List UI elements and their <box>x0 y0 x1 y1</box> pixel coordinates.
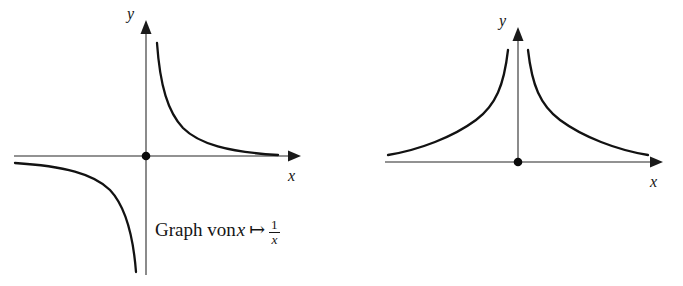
panel-graph-one-over-x: y x Graph vonx↦1x <box>0 0 341 286</box>
x-axis-label: x <box>649 173 657 190</box>
curve-branch-positive <box>528 50 648 155</box>
panel-graph-one-over-x-squared: y x Graph vonx↦1x2 <box>341 0 683 286</box>
plot-one-over-x-squared: y x <box>341 0 683 286</box>
x-axis-label: x <box>287 167 295 184</box>
caption-one-over-x: Graph vonx↦1x <box>155 218 281 246</box>
y-axis-label: y <box>125 5 135 23</box>
maps-to-icon: ↦ <box>246 219 268 240</box>
fraction-denominator-base: x <box>271 232 277 247</box>
curve-branch-positive <box>157 43 278 155</box>
origin-dot <box>514 158 523 167</box>
origin-dot <box>142 152 151 161</box>
curve-branch-negative <box>15 163 136 272</box>
fraction-numerator: 1 <box>269 218 280 233</box>
figure-root: y x Graph vonx↦1x y x Graph vo <box>0 0 683 286</box>
caption-prefix: Graph von <box>155 219 236 240</box>
curve-branch-negative <box>388 50 508 155</box>
y-axis-arrowhead <box>513 27 524 41</box>
caption-variable: x <box>236 219 246 240</box>
fraction-denominator: x <box>269 233 280 247</box>
y-axis-arrowhead <box>141 20 152 34</box>
caption-fraction: 1x <box>268 218 281 246</box>
x-axis-arrowhead <box>288 151 301 162</box>
x-axis-arrowhead <box>650 157 663 168</box>
y-axis-label: y <box>497 12 507 30</box>
